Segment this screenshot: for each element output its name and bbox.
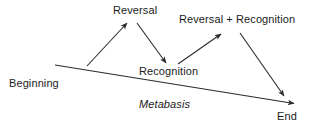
label-reversal-plus-recognition: Reversal + Recognition: [179, 13, 295, 26]
label-metabasis: Metabasis: [139, 98, 190, 111]
edge-reversal-plus-recognition-to-end: [240, 33, 284, 96]
edge-rise-to-reversal-plus-recognition: [178, 34, 221, 64]
label-recognition: Recognition: [139, 65, 198, 78]
edge-rise-to-reversal: [87, 23, 127, 66]
label-reversal: Reversal: [113, 4, 157, 17]
edge-reversal-to-recognition: [137, 23, 166, 63]
label-end: End: [277, 110, 297, 123]
metabasis-diagram: Beginning Reversal Reversal + Recognitio…: [0, 0, 315, 130]
label-beginning: Beginning: [9, 77, 59, 90]
